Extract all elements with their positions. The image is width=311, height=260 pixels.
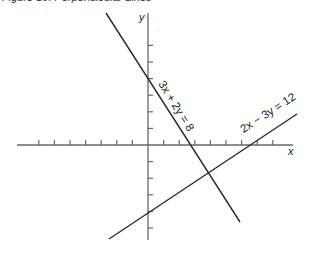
graph-line-1 [106,13,240,222]
equation-label-line-1: 3x + 2y = 8 [156,79,196,134]
x-axis-label: x [287,145,294,157]
y-axis-label: y [138,11,146,23]
coordinate-plane: x y 3x + 2y = 8 2x − 3y = 12 [0,0,311,260]
axis-ticks [39,45,273,228]
equation-label-line-2: 2x − 3y = 12 [238,90,298,135]
graph-line-2 [109,114,297,239]
graph-lines [106,13,297,239]
